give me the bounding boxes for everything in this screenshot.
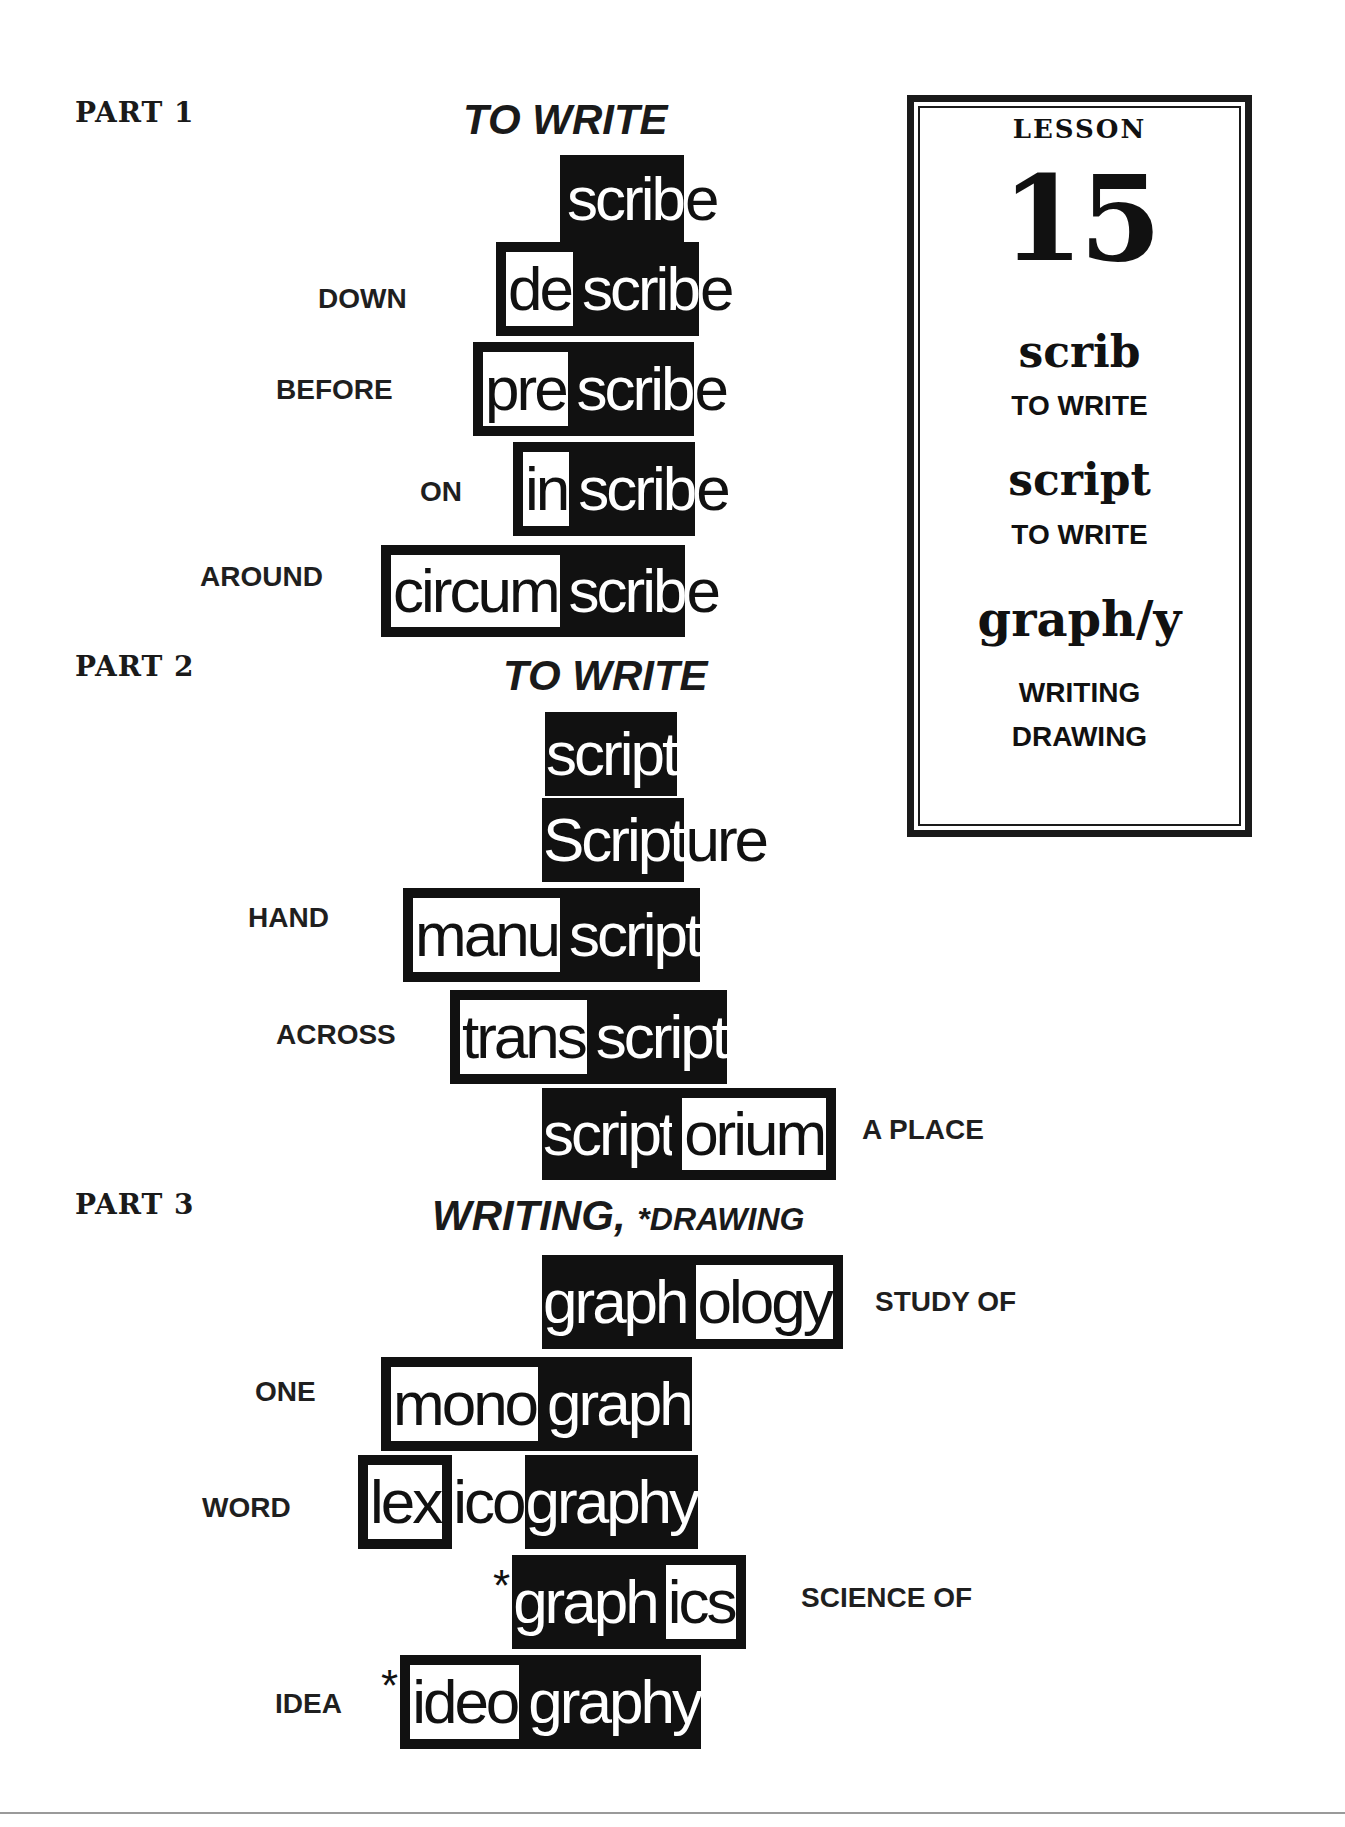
root-segment: script [542,1088,674,1180]
part-2-title: TO WRITE [503,652,708,700]
asterisk-marker: * [381,1661,398,1711]
word-ideography: * ideo graphy [381,1655,701,1749]
root-segment: script [568,888,700,982]
root-script-meaning: TO WRITE [914,516,1245,554]
root-segment: graph [542,1255,688,1349]
suffix-segment: e [685,545,718,637]
root-graph: graph/y [914,595,1245,643]
root-segment: graphy [525,1455,699,1549]
root-segment: scrib [581,242,699,336]
prefix-box: trans [450,990,597,1084]
word-graphics: * graph ics [493,1555,746,1649]
part-1-label: PART 1 [75,96,195,129]
asterisk-marker: * [493,1561,510,1611]
suffix-segment: e [695,442,728,536]
lesson-label: LESSON [914,114,1245,144]
gloss-on: ON [420,476,462,508]
prefix-box: manu [403,888,570,982]
gloss-one: ONE [255,1376,316,1408]
prefix-segment: manu [410,895,563,975]
gloss-idea: IDEA [275,1688,342,1720]
root-segment: scrib [560,155,684,243]
part-3-title-star: *DRAWING [637,1201,804,1237]
prefix-segment: lex [365,1462,445,1542]
lesson-panel: LESSON 15 scrib TO WRITE script TO WRITE… [907,95,1252,837]
part-3-label: PART 3 [75,1188,195,1221]
gloss-study-of: STUDY OF [875,1286,1016,1318]
prefix-segment: mono [388,1364,541,1444]
prefix-box: ideo [400,1655,529,1749]
prefix-box: pre [473,342,578,436]
word-prescribe: pre scrib e [473,342,727,436]
suffix-segment: ics [663,1562,740,1642]
gloss-down: DOWN [318,283,407,315]
suffix-segment: ure [684,798,767,882]
root-graph-meaning-writing: WRITING [914,674,1245,712]
gloss-across: ACROSS [276,1019,396,1051]
gloss-hand: HAND [248,902,329,934]
lesson-number: 15 [914,160,1245,278]
connector-segment: ico [452,1455,524,1549]
prefix-box: mono [381,1357,548,1451]
root-scrib: scrib [914,330,1245,374]
root-segment: scrib [576,342,694,436]
word-describe: de scrib e [496,242,732,336]
prefix-segment: pre [480,349,571,429]
prefix-box: de [496,242,583,336]
root-script: script [914,458,1245,502]
gloss-before: BEFORE [276,374,393,406]
part-3-title-main: WRITING, [432,1192,626,1239]
suffix-segment: orium [679,1095,829,1173]
suffix-box: ology [686,1255,843,1349]
root-segment: script [545,712,677,796]
suffix-box: ics [656,1555,747,1649]
word-monograph: mono graph [381,1357,692,1451]
suffix-segment: e [699,242,732,336]
prefix-segment: ideo [407,1662,522,1742]
bottom-rule [0,1812,1345,1814]
suffix-segment: ology [693,1262,836,1342]
part-2-label: PART 2 [75,650,195,683]
prefix-segment: in [520,449,572,529]
gloss-a-place: A PLACE [862,1114,984,1146]
gloss-science-of: SCIENCE OF [801,1582,972,1614]
word-circumscribe: circum scrib e [381,545,719,637]
suffix-segment: e [694,342,727,436]
suffix-box: orium [672,1088,836,1180]
gloss-around: AROUND [200,561,323,593]
word-transcript: trans script [450,990,727,1084]
root-segment: scrib [577,442,695,536]
prefix-box: circum [381,545,570,637]
part-1-title: TO WRITE [463,96,668,144]
word-graphology: graph ology [542,1255,843,1349]
word-scribe: scrib e [560,155,717,243]
root-segment: scrib [568,545,686,637]
word-script: script [545,712,677,796]
gloss-word: WORD [202,1492,291,1524]
root-segment: script [595,990,727,1084]
root-segment: graphy [527,1655,701,1749]
root-scrib-meaning: TO WRITE [914,387,1245,425]
word-scriptorium: script orium [542,1088,836,1180]
word-inscribe: in scrib e [513,442,729,536]
suffix-segment: e [684,155,717,243]
part-3-title: WRITING, *DRAWING [432,1192,804,1240]
prefix-segment: circum [388,552,563,630]
prefix-segment: trans [457,997,590,1077]
word-lexicography: lex ico graphy [358,1455,698,1549]
prefix-box: in [513,442,579,536]
root-segment: graph [546,1357,692,1451]
word-scripture: Script ure [542,798,767,882]
root-segment: Script [542,798,684,882]
word-manuscript: manu script [403,888,700,982]
prefix-segment: de [503,249,576,329]
root-segment: graph [512,1555,658,1649]
root-graph-meaning-drawing: DRAWING [914,718,1245,756]
prefix-box: lex [358,1455,452,1549]
